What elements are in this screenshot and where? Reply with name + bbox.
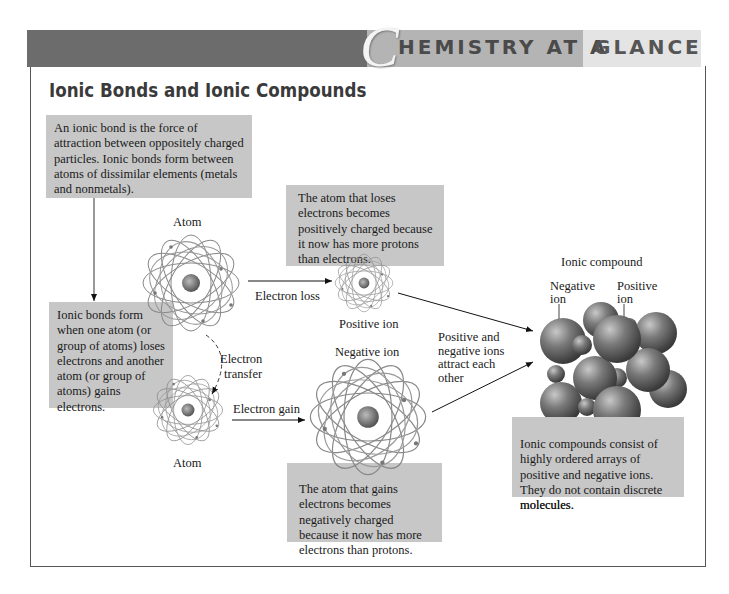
electron-transfer-label-2: transfer	[224, 367, 262, 382]
negative-ion-graphic	[306, 355, 430, 479]
atom-bottom-graphic	[151, 373, 225, 447]
positive-ion-pointer-label-2: ion	[617, 292, 633, 307]
attract-label-1: Positive and	[438, 330, 499, 345]
attract-label-4: other	[438, 371, 464, 386]
positive-ion-label: Positive ion	[339, 317, 398, 332]
attract-label-3: attract each	[438, 357, 495, 372]
positive-to-compound-arrow	[398, 293, 533, 331]
compound-box-overlay: Ionic compounds consist of highly ordere…	[512, 417, 684, 497]
negative-ion-label: Negative ion	[335, 345, 399, 360]
electron-transfer-label-1: Electron	[220, 352, 262, 367]
atom-bottom-label: Atom	[173, 456, 201, 471]
electron-loss-label: Electron loss	[255, 289, 320, 304]
atom-top-graphic	[139, 231, 242, 334]
electron-gain-label: Electron gain	[233, 402, 300, 417]
ionic-compound-label: Ionic compound	[561, 255, 643, 270]
positive-ion-graphic	[333, 252, 395, 314]
atom-top-label: Atom	[173, 215, 201, 230]
negative-ion-pointer-label-2: ion	[550, 292, 566, 307]
ionic-lattice-graphic	[540, 302, 687, 434]
